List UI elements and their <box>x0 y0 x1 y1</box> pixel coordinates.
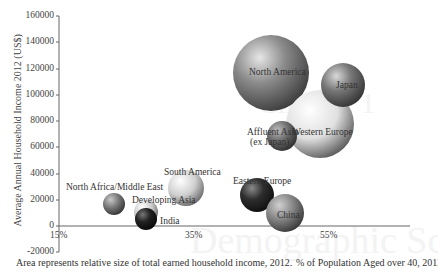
bubble-chart: Chapter 1 Demographic Scenarios <box>0 0 438 276</box>
bubble-label: North Africa/Middle East <box>66 182 163 192</box>
x-tick-label: 35% <box>185 230 202 240</box>
y-tick-label: 140000 <box>26 36 55 46</box>
y-tick-label: 20000 <box>30 194 54 204</box>
y-tick-label: 40000 <box>30 168 54 178</box>
y-tick-label: 160000 <box>26 10 55 20</box>
bubble-label: India <box>160 216 180 226</box>
bubble-north-africa-middle-east <box>103 193 125 215</box>
bubble-label: Eastern Europe <box>233 176 291 186</box>
y-tick-label: 120000 <box>26 63 55 73</box>
bubble-label: (ex Japan) <box>250 137 289 147</box>
x-axis-title: % of Population Aged over 40, 2012 <box>296 257 438 268</box>
bubble-label: Developing Asia <box>132 195 196 205</box>
x-tick-label: 55% <box>320 230 337 240</box>
y-axis-title: Average Annual Household Income 2012 (US… <box>12 37 23 227</box>
bubble-india <box>135 208 157 230</box>
y-tick-label: 0 <box>49 220 54 230</box>
y-tick-label: 100000 <box>26 89 55 99</box>
bubble-label: China <box>277 210 300 220</box>
bubble-label: South America <box>164 167 221 177</box>
x-tick-label: 15% <box>50 230 67 240</box>
bubble-label: North America <box>249 67 306 77</box>
bubble-label: Affluent Asia <box>247 127 298 137</box>
y-tick-label: 80000 <box>30 115 54 125</box>
y-tick-label: -20000 <box>27 246 54 256</box>
bubble-label: Japan <box>336 80 358 90</box>
chart-note: Area represents relative size of total e… <box>16 257 292 268</box>
y-tick-label: 60000 <box>30 141 54 151</box>
bubble-label: Western Europe <box>292 127 353 137</box>
